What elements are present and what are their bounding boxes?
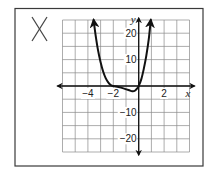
y-tick-label: 10 xyxy=(126,54,138,65)
x-tick-label: −4 xyxy=(82,88,94,99)
y-axis-label: y xyxy=(130,13,136,25)
x-axis-label: x xyxy=(185,87,191,99)
x-tick-label: 2 xyxy=(161,88,167,99)
y-tick-label: −10 xyxy=(120,107,137,118)
graph-figure: X −4−222010−10−20xy xyxy=(0,0,210,175)
y-tick-label: 20 xyxy=(126,28,138,39)
x-tick-label: −2 xyxy=(108,88,120,99)
y-tick-label: −20 xyxy=(120,133,137,144)
